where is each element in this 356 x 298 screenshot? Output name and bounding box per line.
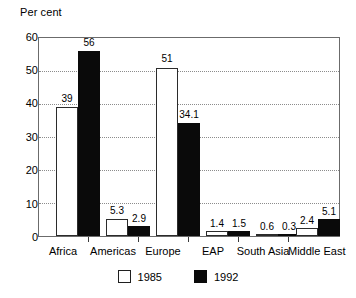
y-tick-label-30: 30 <box>10 132 38 143</box>
value-label-1992-middle-east: 5.1 <box>316 207 342 217</box>
x-tick-3 <box>188 237 189 242</box>
x-category-label-europe: Europe <box>138 245 188 257</box>
legend-entry-1985[interactable]: 1985 <box>118 270 162 283</box>
x-category-label-africa: Africa <box>38 245 88 257</box>
y-tick-label-60: 60 <box>10 32 38 43</box>
y-tick-label-50: 50 <box>10 65 38 76</box>
legend-swatch-black-square-icon <box>194 270 207 283</box>
bar-chart-figure: Per cent 60 50 40 30 20 10 0 <box>0 0 356 298</box>
x-category-label-middle-east: Middle East <box>288 245 344 257</box>
x-tick-5 <box>288 237 289 242</box>
legend-entry-1992[interactable]: 1992 <box>194 270 238 283</box>
y-tick-label-20: 20 <box>10 165 38 176</box>
bar-1992-europe[interactable] <box>178 123 200 236</box>
value-label-1992-americas: 2.9 <box>126 214 152 224</box>
y-tick-label-10: 10 <box>10 199 38 210</box>
legend-label-1992: 1992 <box>214 271 238 283</box>
value-label-1985-europe: 51 <box>154 54 180 64</box>
legend-swatch-white-square-icon <box>118 270 131 283</box>
value-label-1985-middle-east: 2.4 <box>294 216 320 226</box>
x-tick-1 <box>88 237 89 242</box>
bar-1992-middle-east[interactable] <box>318 219 340 236</box>
bar-1985-eap[interactable] <box>206 231 228 236</box>
y-tick-label-0: 0 <box>10 232 38 243</box>
bar-1985-americas[interactable] <box>106 219 128 236</box>
bar-1985-europe[interactable] <box>156 68 178 236</box>
value-label-1992-africa: 56 <box>76 38 102 48</box>
x-category-label-south-asia: South Asia <box>236 245 290 257</box>
chart-legend: 1985 1992 <box>0 270 356 283</box>
value-label-1992-eap: 1.5 <box>226 219 252 229</box>
value-label-1985-africa: 39 <box>54 94 80 104</box>
legend-label-1985: 1985 <box>138 271 162 283</box>
bar-1992-africa[interactable] <box>78 51 100 236</box>
bar-1985-africa[interactable] <box>56 107 78 236</box>
x-category-label-americas: Americas <box>88 245 138 257</box>
x-tick-2 <box>138 237 139 242</box>
x-category-label-eap: EAP <box>188 245 238 257</box>
y-tick-label-40: 40 <box>10 98 38 109</box>
bar-1992-eap[interactable] <box>228 231 250 236</box>
plot-area: 39 56 5.3 2.9 51 34.1 1.4 1.5 0.6 0.3 2.… <box>38 37 340 237</box>
x-tick-4 <box>238 237 239 242</box>
bar-1992-americas[interactable] <box>128 226 150 236</box>
bar-1985-south-asia[interactable] <box>256 234 278 236</box>
value-label-1992-europe: 34.1 <box>174 110 204 120</box>
y-axis-title: Per cent <box>20 6 62 18</box>
